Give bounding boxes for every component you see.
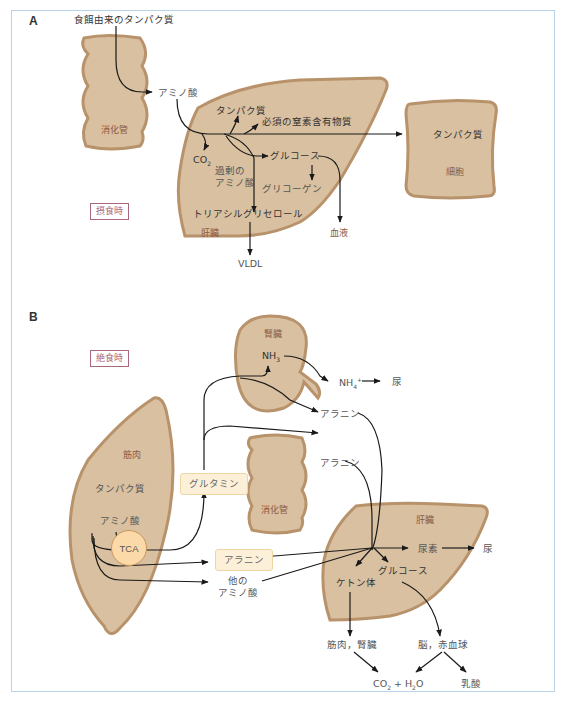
label-blood: 血液 bbox=[330, 229, 348, 238]
state-badge-fed: 摂食時 bbox=[90, 203, 129, 220]
label-dietary-protein: 食餌由来のタンパク質 bbox=[74, 15, 174, 25]
panel-b-letter: B bbox=[29, 310, 38, 324]
label-glycogen: グリコーゲン bbox=[262, 184, 322, 194]
organ-digestive-tract-b: 消化管 bbox=[261, 506, 288, 515]
label-amino-acid-a: アミノ酸 bbox=[158, 88, 198, 98]
label-urine-liver: 尿 bbox=[483, 544, 493, 554]
label-protein-cell: タンパク質 bbox=[433, 130, 483, 140]
label-nh3: NH3 bbox=[262, 351, 280, 363]
label-lactate: 乳酸 bbox=[461, 679, 481, 689]
organ-cell: 細胞 bbox=[446, 168, 464, 177]
label-co2-h2o: CO2 + H2O bbox=[373, 679, 423, 691]
label-nh4: NH4+ bbox=[339, 377, 362, 390]
state-badge-fasting: 絶食時 bbox=[90, 350, 129, 367]
label-glucose-a: グルコース bbox=[270, 151, 320, 161]
label-brain-rbc: 脳，赤血球 bbox=[418, 640, 468, 650]
label-ketone-bodies: ケトン体 bbox=[336, 578, 376, 588]
label-other-amino-acid-2: アミノ酸 bbox=[218, 588, 258, 598]
label-excess-amino-acid-2: アミノ酸 bbox=[215, 178, 255, 188]
label-other-amino-acid-1: 他の bbox=[228, 576, 248, 586]
label-muscle-kidney: 筋肉，腎臓 bbox=[327, 640, 377, 650]
label-urine-kidney: 尿 bbox=[392, 377, 402, 387]
glutamine-box: グルタミン bbox=[180, 473, 248, 495]
organ-liver-a: 肝臓 bbox=[201, 229, 219, 238]
organ-liver-b: 肝臓 bbox=[416, 516, 434, 525]
organ-kidney: 腎臓 bbox=[264, 330, 282, 339]
label-vldl: VLDL bbox=[238, 259, 262, 269]
digestive-tract-shape-b bbox=[248, 435, 306, 533]
panel-a-letter: A bbox=[29, 14, 38, 28]
label-urea: 尿素 bbox=[418, 544, 438, 554]
label-glucose-b: グルコース bbox=[378, 566, 428, 576]
cell-shape-a bbox=[406, 100, 496, 198]
label-alanine-gut: アラニン bbox=[320, 458, 360, 468]
label-protein-liver: タンパク質 bbox=[216, 106, 266, 116]
label-protein-muscle: タンパク質 bbox=[95, 484, 145, 494]
label-amino-acid-muscle: アミノ酸 bbox=[100, 516, 140, 526]
label-triacylglycerol: トリアシルグリセロール bbox=[193, 209, 303, 219]
label-co2-a: CO2 bbox=[193, 155, 211, 167]
liver-shape-b bbox=[323, 503, 487, 620]
organ-muscle: 筋肉 bbox=[123, 451, 141, 460]
label-excess-amino-acid-1: 過剰の bbox=[215, 166, 245, 176]
alanine-box: アラニン bbox=[215, 549, 273, 571]
diagram-canvas bbox=[0, 0, 566, 703]
label-alanine-kidney: アラニン bbox=[320, 409, 360, 419]
tca-cycle-circle: TCA bbox=[111, 530, 147, 566]
organ-digestive-tract-a: 消化管 bbox=[101, 126, 128, 135]
label-essential-nitrogen: 必須の窒素含有物質 bbox=[262, 117, 352, 127]
